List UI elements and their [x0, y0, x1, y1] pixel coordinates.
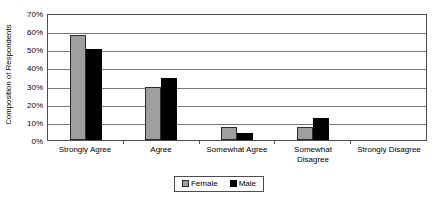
x-axis-category-label: Agree — [123, 145, 199, 173]
x-axis-category-label: Somewhat Agree — [199, 145, 275, 173]
x-axis-category-label-line: Agree — [123, 145, 199, 155]
bar-female[interactable] — [221, 127, 237, 140]
black-square-swatch — [230, 180, 237, 187]
bar-male[interactable] — [237, 133, 253, 140]
x-axis-category-label-line: Strongly Agree — [47, 145, 123, 155]
legend-item-label: Male — [239, 179, 256, 188]
legend-box: FemaleMale — [174, 176, 264, 192]
y-axis-tick-label: 50% — [27, 46, 43, 55]
x-axis-tick — [123, 140, 124, 144]
bar-male[interactable] — [313, 118, 329, 140]
bar-male[interactable] — [86, 49, 102, 140]
bar-female[interactable] — [70, 35, 86, 140]
x-axis-category-labels: Strongly AgreeAgreeSomewhat AgreeSomewha… — [47, 145, 427, 173]
bar-group — [48, 15, 124, 140]
y-axis-title-label: Composition of Respondents — [4, 24, 13, 124]
y-axis-tick-labels: 70%60%50%40%30%20%10%0% — [16, 14, 46, 141]
y-axis-tick-label: 60% — [27, 28, 43, 37]
y-axis-title: Composition of Respondents — [0, 0, 16, 148]
x-axis-category-label-line: Somewhat — [275, 145, 351, 155]
legend-item[interactable]: Female — [182, 179, 218, 188]
bar-female[interactable] — [297, 127, 313, 140]
x-axis-category-label-line: Disagree — [275, 155, 351, 165]
x-axis-category-label-line: Strongly Disagree — [351, 145, 427, 155]
y-axis-tick-label: 20% — [27, 100, 43, 109]
bar-female[interactable] — [145, 87, 161, 140]
x-axis-category-label-line: Somewhat Agree — [199, 145, 275, 155]
x-axis-tick — [350, 140, 351, 144]
legend-item-label: Female — [191, 179, 218, 188]
y-axis-tick-label: 10% — [27, 118, 43, 127]
x-axis-tick — [199, 140, 200, 144]
y-axis-tick-label: 40% — [27, 64, 43, 73]
x-axis-category-label: Strongly Disagree — [351, 145, 427, 173]
grouped-bar-chart: Composition of Respondents 70%60%50%40%3… — [0, 0, 438, 203]
y-axis-tick-label: 30% — [27, 82, 43, 91]
bar-group — [350, 15, 426, 140]
y-axis-tick-label: 70% — [27, 10, 43, 19]
legend-item[interactable]: Male — [230, 179, 256, 188]
x-axis-tick — [274, 140, 275, 144]
gray-square-swatch — [182, 180, 189, 187]
bar-group — [275, 15, 351, 140]
plot-area — [47, 14, 427, 141]
x-axis-category-label: Strongly Agree — [47, 145, 123, 173]
bar-group — [124, 15, 200, 140]
bar-groups — [48, 15, 426, 140]
x-axis-category-label: SomewhatDisagree — [275, 145, 351, 173]
bar-male[interactable] — [161, 78, 177, 140]
legend: FemaleMale — [0, 176, 438, 192]
bar-group — [199, 15, 275, 140]
y-axis-tick-label: 0% — [31, 137, 43, 146]
